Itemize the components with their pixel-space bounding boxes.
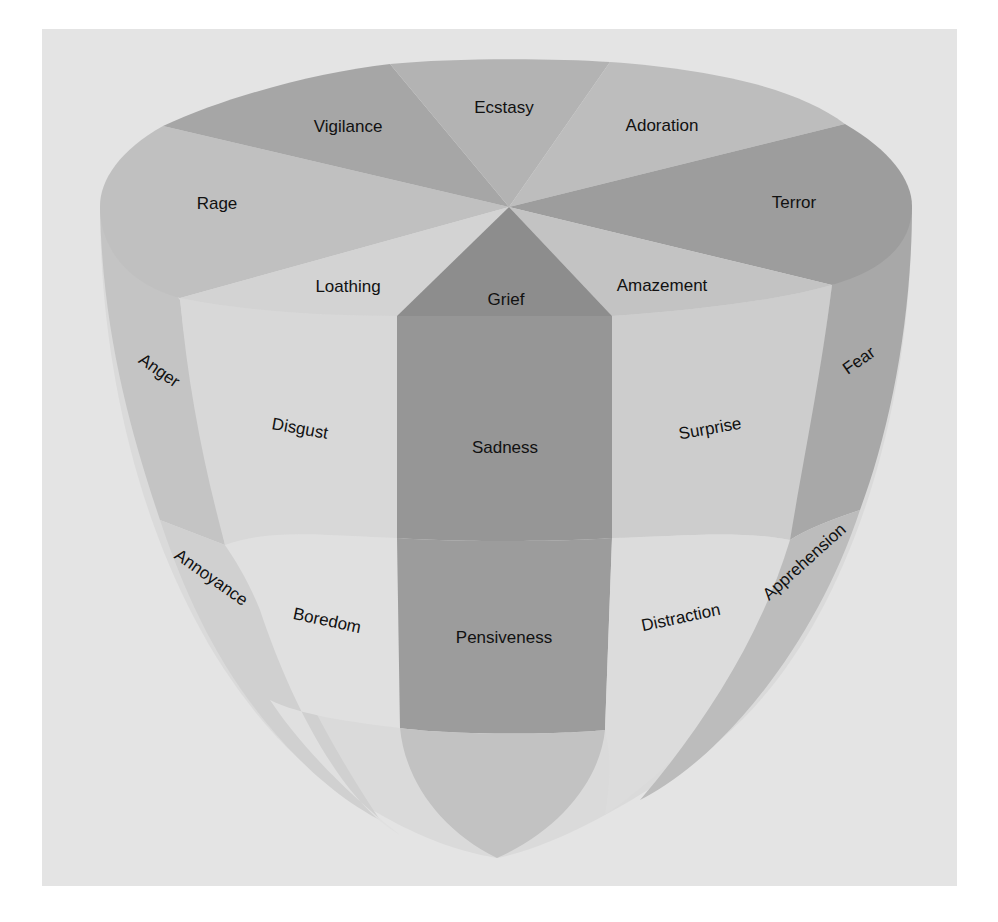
label-grief: Grief	[488, 290, 525, 309]
label-adoration: Adoration	[626, 116, 699, 135]
segment-sadness-column	[397, 316, 612, 541]
label-amazement: Amazement	[617, 276, 708, 295]
label-loathing: Loathing	[315, 277, 380, 296]
label-sadness: Sadness	[472, 438, 538, 457]
emotion-cone-diagram: Vigilance Ecstasy Adoration Terror Rage …	[0, 0, 998, 922]
label-ecstasy: Ecstasy	[474, 98, 534, 117]
label-rage: Rage	[197, 194, 238, 213]
label-terror: Terror	[772, 193, 817, 212]
label-pensiveness: Pensiveness	[456, 628, 552, 647]
label-vigilance: Vigilance	[314, 117, 383, 136]
